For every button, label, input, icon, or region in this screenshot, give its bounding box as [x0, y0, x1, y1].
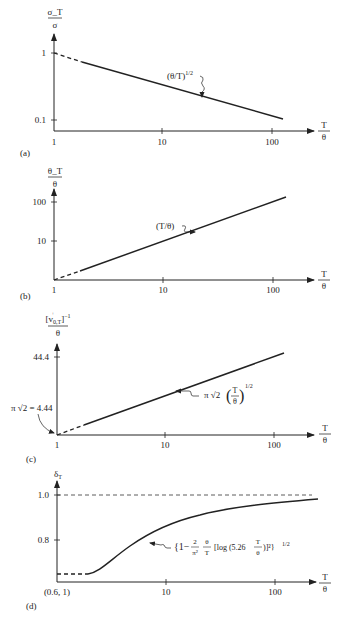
series-dashed-segment — [54, 53, 82, 62]
svg-text:θ: θ — [256, 549, 260, 557]
svg-text:π²: π² — [192, 549, 198, 557]
x-axis-label-denominator: θ — [322, 281, 326, 291]
y-tick-label: 44.4 — [33, 352, 49, 362]
x-tick-label: 1 — [55, 440, 60, 450]
figure-canvas: σ_T σ 1 0.1 1 10 100 T θ (θ/T)1/2 (a) θ_… — [0, 0, 344, 622]
annotation-pointer — [176, 391, 199, 396]
x-tick-label: 100 — [266, 285, 280, 295]
panel-label: (a) — [20, 148, 30, 158]
y-tick-label: 10 — [37, 236, 47, 246]
panel-b: θ_T θ 100 10 1 10 100 T θ (T/θ) (b) — [20, 166, 330, 301]
x-axis-label-denominator: θ — [322, 132, 326, 142]
svg-text:[log (5.26: [log (5.26 — [214, 543, 246, 552]
x-tick-label: (0.6, 1) — [44, 587, 70, 597]
y-tick-label: 0.1 — [35, 115, 46, 125]
x-tick-label: 10 — [161, 440, 171, 450]
panel-label: (c) — [26, 454, 36, 464]
x-tick-label: 1 — [52, 137, 57, 147]
y-axis-label-numerator: σ_T — [48, 7, 63, 17]
y-axis-label: δT — [54, 469, 62, 480]
x-tick-label: 10 — [159, 285, 169, 295]
series-dashed-segment — [54, 271, 80, 280]
series-line — [84, 353, 284, 425]
svg-text:1/2: 1/2 — [282, 541, 290, 547]
panel-c: [v0,T]−1 + θ 44.4 1 10 100 T θ π √2 = 4.… — [11, 311, 331, 464]
series-dashed-segment — [57, 425, 84, 435]
panel-label: (b) — [20, 291, 31, 301]
panel-label: (d) — [26, 601, 37, 611]
svg-text:T: T — [256, 538, 261, 546]
x-axis-label-denominator: θ — [323, 435, 327, 445]
svg-text:T: T — [205, 549, 210, 557]
origin-annotation: π √2 = 4.44 — [11, 403, 53, 413]
x-axis-label-denominator: θ — [323, 584, 327, 594]
panel-d: δT 1.0 0.8 (0.6, 1) 10 100 T θ {1− 2 π² … — [26, 469, 331, 611]
svg-text:)]²}: )]²} — [263, 543, 275, 552]
panel-a: σ_T σ 1 0.1 1 10 100 T θ (θ/T)1/2 (a) — [20, 7, 330, 158]
x-tick-label: 100 — [265, 137, 279, 147]
svg-text:T: T — [233, 386, 238, 395]
y-axis-label-denominator: σ — [53, 20, 58, 30]
svg-text:θ: θ — [205, 538, 209, 546]
x-tick-label: 1 — [52, 285, 57, 295]
annotation-pointer — [150, 543, 171, 548]
svg-text:θ: θ — [233, 397, 237, 406]
curve-annotation: (θ/T)1/2 — [167, 70, 193, 81]
y-tick-label: 100 — [33, 197, 47, 207]
curve-annotation: π √2 — [204, 390, 220, 400]
x-tick-label: 10 — [158, 137, 168, 147]
x-tick-label: 10 — [162, 587, 172, 597]
y-axis-label-denominator: θ — [53, 179, 57, 189]
x-axis-label-numerator: T — [322, 423, 328, 433]
x-axis-label-numerator: T — [322, 572, 328, 582]
curve-annotation: (T/θ) — [156, 221, 174, 231]
svg-text:): ) — [239, 387, 244, 405]
series-line — [80, 197, 286, 271]
y-tick-label: 0.8 — [38, 535, 50, 545]
svg-text:1/2: 1/2 — [245, 383, 253, 389]
x-axis-label-numerator: T — [321, 269, 327, 279]
x-tick-label: 100 — [268, 587, 282, 597]
y-axis-label-numerator: [v0,T]−1 — [45, 313, 70, 325]
svg-text:2: 2 — [193, 538, 197, 546]
annotation-pointer — [200, 76, 204, 97]
svg-text:{1−: {1− — [174, 541, 190, 552]
y-tick-label: 1 — [42, 48, 47, 58]
svg-text:(: ( — [226, 387, 231, 405]
x-axis-label-numerator: T — [321, 120, 327, 130]
y-axis-label-numerator: θ_T — [48, 166, 63, 176]
origin-pointer — [38, 414, 54, 433]
svg-text:+: + — [52, 311, 55, 316]
x-tick-label: 100 — [267, 440, 281, 450]
y-axis-label-denominator: θ — [56, 328, 60, 338]
y-tick-label: 1.0 — [38, 490, 50, 500]
series-line — [88, 499, 318, 574]
curve-annotation: {1− 2 π² θ T [log (5.26 T θ )]²} 1/2 — [174, 538, 290, 557]
